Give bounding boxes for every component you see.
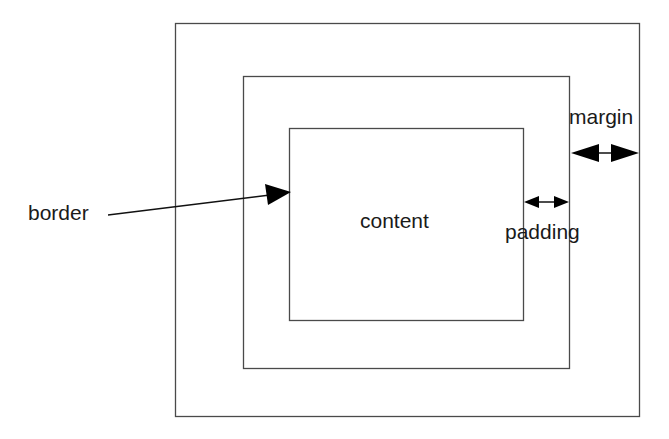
border-label: border bbox=[28, 202, 89, 223]
padding-label: padding bbox=[505, 221, 580, 242]
padding-double-arrow-icon bbox=[524, 196, 569, 208]
margin-double-arrow-icon bbox=[571, 144, 639, 162]
border-arrow-icon bbox=[108, 184, 291, 215]
margin-label: margin bbox=[569, 106, 633, 127]
content-label: content bbox=[360, 210, 429, 231]
